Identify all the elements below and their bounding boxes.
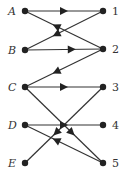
node-2 [100,46,106,52]
node-label-B: B [7,44,16,57]
node-label-4: 4 [112,119,119,132]
arrowhead-icon [60,7,68,15]
node-label-5: 5 [112,157,119,170]
node-4 [100,122,106,128]
node-label-1: 1 [112,5,119,18]
directed-graph: ABCDE12345 [0,0,123,175]
node-label-C: C [8,81,17,94]
node-label-2: 2 [112,43,119,56]
edge-B-2 [25,49,103,50]
node-label-3: 3 [112,81,119,94]
node-label-A: A [7,5,16,18]
node-label-E: E [7,157,16,170]
node-5 [100,160,106,166]
node-D [22,122,28,128]
node-E [22,160,28,166]
node-1 [100,8,106,14]
edge-5-D [25,125,103,163]
arrowhead-icon [60,83,68,91]
node-label-D: D [7,119,17,132]
node-3 [100,84,106,90]
arrowhead-icon [68,45,76,53]
node-A [22,8,28,14]
node-B [22,47,28,53]
node-C [22,84,28,90]
edge-2-C [25,49,103,87]
